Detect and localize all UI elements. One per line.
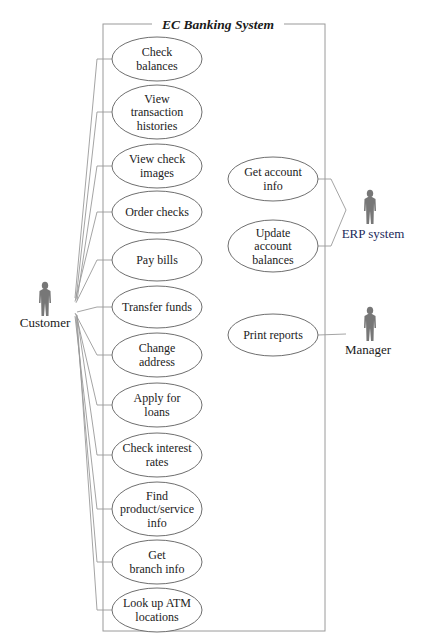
use-case-update-account-balances[interactable]: Updateaccountbalances: [228, 220, 318, 272]
actor-label: Customer: [20, 315, 71, 330]
use-case-label: Get: [148, 548, 166, 562]
use-case-label: product/service: [120, 502, 194, 516]
use-cases: CheckbalancesViewtransactionhistoriesVie…: [112, 37, 318, 632]
use-case-find-product-service-info[interactable]: Findproduct/serviceinfo: [112, 482, 202, 536]
use-case-label: account: [254, 239, 292, 253]
use-case-label: Check: [142, 45, 173, 59]
use-case-get-branch-info[interactable]: Getbranch info: [112, 540, 202, 584]
customer-association-line: [76, 314, 112, 405]
use-case-change-address[interactable]: Changeaddress: [112, 333, 202, 377]
use-case-view-transaction-histories[interactable]: Viewtransactionhistories: [112, 85, 202, 139]
use-case-label: View: [144, 92, 170, 106]
use-case-label: Change: [139, 341, 176, 355]
use-case-look-up-atm-locations[interactable]: Look up ATMlocations: [112, 588, 202, 632]
customer-association-line: [77, 318, 112, 610]
use-case-label: info: [147, 516, 166, 530]
customer-association-line: [77, 166, 112, 300]
use-case-order-checks[interactable]: Order checks: [112, 191, 202, 233]
customer-association-line: [75, 316, 112, 509]
erp-association-line: [318, 179, 346, 210]
system-title: EC Banking System: [161, 17, 274, 32]
customer-association-line: [77, 307, 112, 312]
use-case-label: Transfer funds: [122, 300, 192, 314]
customer-association-line: [76, 260, 112, 303]
use-case-label: Get account: [244, 165, 302, 179]
use-case-label: Pay bills: [136, 253, 178, 267]
actor-erp[interactable]: ERP system: [342, 190, 405, 241]
person-icon: [39, 282, 51, 316]
use-case-label: address: [139, 355, 175, 369]
use-case-view-check-images[interactable]: View checkimages: [112, 144, 202, 188]
person-icon: [364, 190, 376, 224]
use-case-label: Update: [256, 226, 291, 240]
use-case-label: rates: [146, 455, 169, 469]
use-case-transfer-funds[interactable]: Transfer funds: [112, 286, 202, 328]
manager-association-line: [318, 334, 346, 335]
use-case-label: locations: [135, 610, 179, 624]
customer-association-line: [76, 317, 112, 562]
use-case-apply-for-loans[interactable]: Apply forloans: [112, 383, 202, 427]
use-case-label: Order checks: [125, 205, 189, 219]
use-case-check-balances[interactable]: Checkbalances: [112, 37, 202, 81]
use-case-label: loans: [144, 405, 170, 419]
actor-label: ERP system: [342, 226, 405, 241]
use-case-label: branch info: [130, 562, 185, 576]
use-case-label: Apply for: [134, 391, 181, 405]
use-case-label: images: [140, 166, 174, 180]
use-case-pay-bills[interactable]: Pay bills: [112, 239, 202, 281]
use-case-label: info: [263, 179, 282, 193]
use-case-check-interest-rates[interactable]: Check interestrates: [112, 433, 202, 477]
use-case-label: transaction: [131, 105, 184, 119]
use-case-diagram: EC Banking System CheckbalancesViewtrans…: [0, 0, 424, 644]
actor-label: Manager: [345, 342, 392, 357]
use-case-label: Find: [146, 489, 168, 503]
use-case-label: histories: [137, 119, 178, 133]
use-case-print-reports[interactable]: Print reports: [228, 314, 318, 356]
person-icon: [364, 307, 376, 341]
use-case-label: Check interest: [123, 441, 193, 455]
use-case-label: Print reports: [243, 328, 303, 342]
use-case-get-account-info[interactable]: Get accountinfo: [228, 157, 318, 201]
use-case-label: Look up ATM: [123, 596, 191, 610]
use-case-label: View check: [129, 152, 185, 166]
use-case-label: balances: [136, 59, 178, 73]
actor-manager[interactable]: Manager: [345, 307, 392, 357]
use-case-label: balances: [252, 253, 294, 267]
actor-customer[interactable]: Customer: [20, 282, 71, 330]
